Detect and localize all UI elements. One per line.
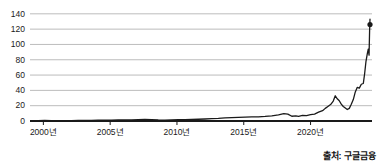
y-tick-label: 120 [11,24,25,34]
y-tick-label: 140 [11,9,25,19]
y-tick-label: 80 [16,55,26,65]
y-tick-label: 60 [16,70,26,80]
y-tick-label: 40 [16,85,26,95]
end-point-marker [367,22,372,27]
x-tick-label: 2005년 [97,127,124,137]
chart-figure: 020406080100120140 2000년2005년2010년2015년2… [0,0,384,166]
gridlines [30,14,372,106]
x-tick-label: 2000년 [30,127,57,137]
x-tick-label: 2010년 [163,127,190,137]
line-chart: 020406080100120140 2000년2005년2010년2015년2… [0,0,384,166]
y-tick-label: 20 [16,100,26,110]
y-tick-label: 100 [11,39,25,49]
source-attribution: 출처: 구글금융 [323,149,377,162]
x-tick-label: 2020년 [297,127,324,137]
x-axis-tick-labels: 2000년2005년2010년2015년2020년 [30,127,324,137]
y-axis-tick-labels: 020406080100120140 [11,9,25,126]
end-marker-dot [367,22,372,27]
x-tick-label: 2015년 [230,127,257,137]
y-tick-label: 0 [20,116,25,126]
